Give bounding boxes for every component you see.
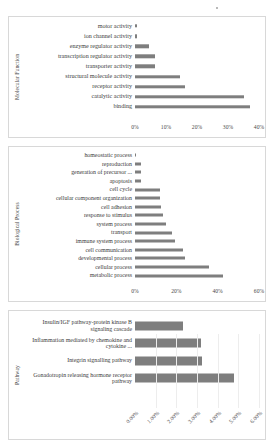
bar-track — [135, 151, 259, 160]
figure-container: Molecular Function motor activityion cha… — [0, 0, 276, 446]
x-axis-tick-label: 20% — [171, 288, 181, 294]
bar-category-label: Insulin/IGF pathway-protein kinase B sig… — [23, 319, 135, 332]
bar-category-label: response to stimulus — [23, 212, 135, 219]
gridline — [259, 334, 260, 408]
bar-row: transporter activity — [23, 61, 259, 71]
bar — [135, 205, 161, 208]
bar — [135, 180, 141, 183]
bar-track — [135, 102, 259, 112]
bar-row: cell cycle — [23, 185, 259, 194]
bar-category-label: transport — [23, 229, 135, 236]
bar-track — [135, 31, 259, 41]
bar — [135, 162, 141, 165]
gridline — [176, 334, 177, 408]
bar-category-label: enzyme regulator activity — [23, 43, 135, 50]
plot-area-molecular-function: Molecular Function motor activityion cha… — [9, 17, 265, 137]
bar-track — [135, 71, 259, 81]
plot-area-pathway: Pathway Insulin/IGF pathway-protein kina… — [9, 311, 265, 439]
bar-row: immune system process — [23, 237, 259, 246]
bar-category-label: reproduction — [23, 161, 135, 168]
bar — [135, 248, 183, 251]
x-axis-tick-label: 4.00% — [207, 410, 221, 424]
bar-category-label: transporter activity — [23, 63, 135, 70]
bar-row: generation of precursor ... — [23, 168, 259, 177]
x-axis-tick-label: 40% — [254, 124, 264, 130]
page-speck — [216, 7, 218, 9]
bar — [135, 45, 149, 48]
bar-row: developmental process — [23, 254, 259, 263]
bar — [135, 75, 180, 78]
bar-row: cellular component organization — [23, 194, 259, 203]
bar-category-label: structural molecule activity — [23, 73, 135, 80]
bar-row: transport — [23, 228, 259, 237]
bar-category-label: Integrin signalling pathway — [23, 357, 135, 364]
x-axis-tick-label: 3.00% — [187, 410, 201, 424]
bar-track — [135, 228, 259, 237]
bar-category-label: homeostatic process — [23, 152, 135, 159]
bar-row: transcription regulator activity — [23, 51, 259, 61]
bar-row: apoptosis — [23, 177, 259, 186]
bar — [135, 223, 166, 226]
bar — [135, 339, 201, 348]
bar-category-label: motor activity — [23, 23, 135, 30]
bar-row: Integrin signalling pathway — [23, 352, 259, 370]
bar-track — [135, 21, 259, 31]
bar — [135, 274, 223, 277]
bar — [135, 154, 136, 157]
bar-track — [135, 220, 259, 229]
bar-row: motor activity — [23, 21, 259, 31]
bar-category-label: developmental process — [23, 255, 135, 262]
bar-track — [135, 168, 259, 177]
y-axis-title-text: Pathway — [14, 365, 20, 385]
bar-category-label: ion channel activity — [23, 33, 135, 40]
bar-row: cell communication — [23, 246, 259, 255]
bar-category-label: cell cycle — [23, 186, 135, 193]
bar-row: response to stimulus — [23, 211, 259, 220]
chart-panel-molecular-function: Molecular Function motor activityion cha… — [8, 16, 266, 138]
bar-category-label: receptor activity — [23, 83, 135, 90]
bar-track — [135, 177, 259, 186]
bar-category-label: cellular process — [23, 264, 135, 271]
bar — [135, 266, 209, 269]
bar-row: ion channel activity — [23, 31, 259, 41]
x-axis-tick-label: 40% — [213, 288, 223, 294]
y-axis-title-biological-process: Biological Process — [11, 147, 23, 301]
bar-track — [135, 185, 259, 194]
bar — [135, 356, 202, 365]
bar — [135, 188, 160, 191]
bar-track — [135, 211, 259, 220]
bar-track — [135, 237, 259, 246]
bar-row: catalytic activity — [23, 92, 259, 102]
x-axis-molecular-function: 0%10%20%30%40% — [23, 123, 259, 135]
gridline — [238, 334, 239, 408]
bar — [135, 374, 234, 383]
bar-track — [135, 92, 259, 102]
bar — [135, 321, 183, 330]
bar-track — [135, 263, 259, 272]
y-axis-title-molecular-function: Molecular Function — [11, 17, 23, 137]
bar-rows-biological-process: homeostatic processreproductiongeneratio… — [23, 151, 259, 280]
x-axis-pathway: 0.00%1.00%2.00%3.00%4.00%5.00%6.00% — [23, 408, 259, 438]
bar — [135, 171, 141, 174]
bar-category-label: Gonadotropin releasing hormone receptor … — [23, 372, 135, 385]
bar-row: homeostatic process — [23, 151, 259, 160]
bar-rows-molecular-function: motor activityion channel activityenzyme… — [23, 21, 259, 112]
y-axis-title-text: Molecular Function — [14, 54, 20, 100]
x-axis-tick-label: 20% — [192, 124, 202, 130]
bar-track — [135, 61, 259, 71]
bar-row: enzyme regulator activity — [23, 41, 259, 51]
y-axis-title-pathway: Pathway — [11, 311, 23, 439]
bar-category-label: system process — [23, 221, 135, 228]
bar-row: cell adhesion — [23, 203, 259, 212]
bar-category-label: cell adhesion — [23, 204, 135, 211]
bar — [135, 197, 160, 200]
x-axis-tick-label: 0% — [131, 288, 138, 294]
bar — [135, 55, 155, 58]
bar-row: system process — [23, 220, 259, 229]
bar-track — [135, 317, 259, 335]
y-axis-title-text: Biological Process — [14, 202, 20, 246]
bar-row: Inflammation mediated by chemokine and c… — [23, 335, 259, 353]
x-axis-tick-label: 6.00% — [249, 410, 263, 424]
bar-row: Insulin/IGF pathway-protein kinase B sig… — [23, 317, 259, 335]
chart-panel-biological-process: Biological Process homeostatic processre… — [8, 146, 266, 302]
